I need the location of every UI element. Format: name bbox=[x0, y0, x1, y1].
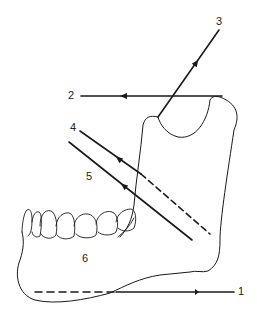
label-2: 2 bbox=[68, 90, 74, 101]
label-1: 1 bbox=[238, 286, 244, 297]
label-4: 4 bbox=[70, 122, 76, 133]
mandible-diagram: 1 2 3 4 5 6 bbox=[0, 0, 257, 315]
arrow-icon-line-1 bbox=[195, 289, 199, 295]
arrow-icon-line-2 bbox=[120, 93, 127, 99]
diagram-drawing bbox=[0, 0, 257, 315]
reference-line-5 bbox=[69, 142, 192, 240]
label-3: 3 bbox=[216, 16, 222, 27]
label-5: 5 bbox=[86, 171, 92, 182]
ramus-inner-line bbox=[118, 218, 134, 237]
teeth bbox=[22, 209, 136, 239]
reference-line-4 bbox=[80, 131, 141, 174]
label-6: 6 bbox=[82, 253, 88, 264]
mandible-outline bbox=[17, 96, 237, 302]
reference-line-4-dashed bbox=[141, 174, 210, 234]
